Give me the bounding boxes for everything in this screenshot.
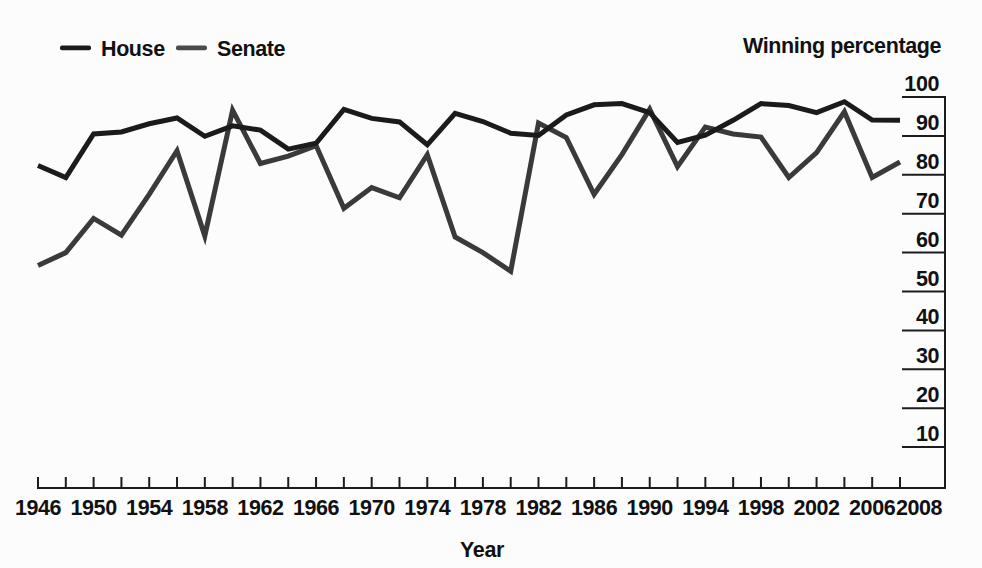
x-tick-label: 1954 — [126, 496, 173, 520]
x-tick-label: 1974 — [404, 496, 451, 520]
x-tick-label: 2002 — [793, 496, 840, 520]
legend-swatch-senate — [176, 46, 207, 51]
y-tick-label: 10 — [916, 422, 940, 446]
y-tick-label: 100 — [904, 72, 939, 96]
series-lines — [38, 102, 900, 272]
y-tick-label: 70 — [916, 189, 940, 213]
x-axis-title: Year — [460, 538, 505, 562]
x-tick-label: 1966 — [293, 496, 340, 520]
y-tick-label: 80 — [916, 150, 940, 174]
x-tick-label: 1958 — [182, 496, 229, 520]
x-tick-label: 1946 — [15, 496, 62, 520]
x-tick-label: 1990 — [627, 496, 674, 520]
x-tick-label: 1998 — [738, 496, 785, 520]
y-tick-label: 30 — [916, 344, 940, 368]
y-tick-label: 40 — [916, 305, 940, 329]
y-tick-label: 50 — [916, 267, 940, 291]
y-tick-label: 60 — [916, 228, 940, 252]
x-tick-label: 1986 — [571, 496, 618, 520]
x-tick-label: 1970 — [349, 496, 396, 520]
x-tick-label: 1978 — [460, 496, 507, 520]
y-axis: 100908070605040302010 — [902, 72, 945, 489]
x-tick-label: 2008 — [896, 496, 943, 520]
x-tick-label: 1962 — [237, 496, 284, 520]
x-tick-label: 1994 — [682, 496, 729, 520]
x-tick-label: 2006 — [849, 496, 896, 520]
legend: House Senate — [60, 37, 286, 61]
y-tick-label: 20 — [916, 383, 940, 407]
legend-swatch-house — [60, 46, 91, 51]
chart-figure: House Senate Winning percentage Year 100… — [0, 0, 982, 568]
chart-canvas: House Senate Winning percentage Year 100… — [0, 0, 982, 568]
legend-label-house: House — [101, 37, 165, 61]
x-axis: 1946195019541958196219661970197419781982… — [15, 477, 946, 520]
y-tick-label: 90 — [916, 111, 940, 135]
legend-label-senate: Senate — [217, 37, 286, 61]
senate-line — [38, 109, 900, 271]
y-axis-title: Winning percentage — [743, 34, 942, 58]
x-tick-label: 1982 — [515, 496, 562, 520]
x-tick-label: 1950 — [70, 496, 117, 520]
